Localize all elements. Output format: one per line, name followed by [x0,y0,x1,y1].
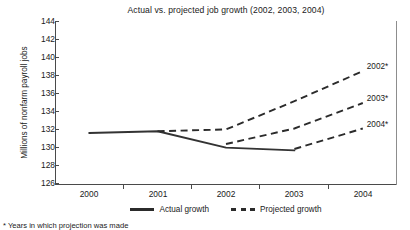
projection-label-2004: 2004* [367,120,388,129]
legend-label-projected: Projected growth [260,205,321,214]
projection-label-2003: 2003* [367,94,388,103]
projection-2004-line [294,129,362,150]
legend-entry-actual: Actual growth [130,205,209,214]
projection-2003-line [226,103,363,144]
series-layer [0,0,410,230]
legend-entry-projected: Projected growth [231,205,321,214]
chart-legend: Actual growth Projected growth [55,205,397,214]
projection-2002-line [158,71,363,131]
chart-footnote: * Years in which projection was made [3,221,128,230]
chart-figure: Actual vs. projected job growth (2002, 2… [0,0,410,230]
solid-line-swatch-icon [130,208,154,211]
actual-growth-line [89,131,294,150]
dashed-line-swatch-icon [231,208,255,211]
legend-label-actual: Actual growth [159,205,209,214]
projection-label-2002: 2002* [367,62,388,71]
